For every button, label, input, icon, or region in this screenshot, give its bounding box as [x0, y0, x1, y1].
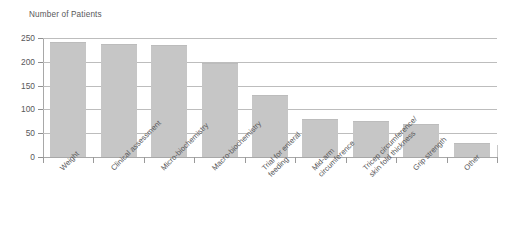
bar-chart: Number of Patients 050100150200250 Weigh…	[0, 0, 513, 250]
y-tick-label: 50	[26, 128, 35, 138]
y-tick-mark	[38, 133, 43, 134]
chart-title: Number of Patients	[29, 10, 102, 19]
y-tick-mark	[38, 38, 43, 39]
bar	[151, 45, 187, 157]
y-tick-mark	[38, 86, 43, 87]
x-tick-mark	[396, 157, 397, 163]
x-tick-mark	[447, 157, 448, 163]
bar	[50, 42, 86, 157]
x-tick-mark	[93, 157, 94, 163]
plot-area: 050100150200250	[43, 38, 497, 157]
x-tick-mark	[144, 157, 145, 163]
gridline	[43, 38, 497, 39]
x-tick-mark	[245, 157, 246, 163]
x-tick-mark	[497, 157, 498, 163]
y-tick-label: 250	[21, 33, 35, 43]
y-tick-label: 100	[21, 104, 35, 114]
y-tick-label: 0	[30, 152, 35, 162]
x-tick-mark	[194, 157, 195, 163]
y-tick-label: 150	[21, 81, 35, 91]
y-tick-label: 200	[21, 57, 35, 67]
x-tick-mark	[43, 157, 44, 163]
y-tick-mark	[38, 109, 43, 110]
y-tick-mark	[38, 62, 43, 63]
bar	[101, 44, 137, 157]
x-tick-mark	[346, 157, 347, 163]
x-tick-mark	[295, 157, 296, 163]
